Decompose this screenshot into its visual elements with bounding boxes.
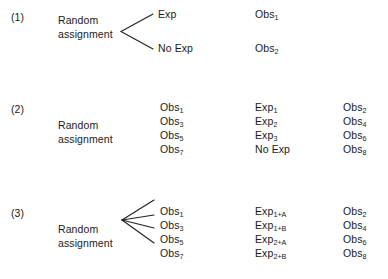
experimental-design-diagram: (1) Random assignment Exp No Exp Obs1 Ob… [0, 0, 388, 279]
cell-treatment-2-0: Exp1 [255, 101, 277, 113]
random-assignment-line-1b: assignment [58, 28, 113, 42]
cell-treatment-2-1: Exp2 [255, 115, 277, 127]
cell-posttest-3-3: Obs8 [343, 247, 367, 259]
cell-posttest-2-0: Obs2 [343, 101, 367, 113]
design-block-2: (2) Random assignment Obs1 Obs3 Obs5 Obs… [0, 92, 388, 184]
branch-fan-2way [118, 8, 158, 56]
cell-treatment-1-0: Exp [158, 8, 176, 20]
cell-posttest-3-0: Obs2 [343, 205, 367, 217]
cell-posttest-3-1: Obs4 [343, 219, 367, 231]
cell-posttest-1-0: Obs1 [255, 8, 279, 20]
design-index-label-2: (2) [11, 103, 24, 115]
cell-pretest-3-0: Obs1 [160, 205, 184, 217]
random-assignment-label-3: Random assignment [58, 223, 113, 250]
cell-posttest-2-1: Obs4 [343, 115, 367, 127]
cell-pretest-2-0: Obs1 [160, 101, 184, 113]
cell-pretest-2-1: Obs3 [160, 115, 184, 127]
cell-treatment-2-2: Exp3 [255, 129, 277, 141]
cell-posttest-3-2: Obs6 [343, 233, 367, 245]
cell-treatment-3-1: Exp1+B [255, 219, 286, 231]
cell-treatment-3-2: Exp2+A [255, 233, 286, 245]
design-block-1: (1) Random assignment Exp No Exp Obs1 Ob… [0, 0, 388, 84]
cell-pretest-3-3: Obs7 [160, 247, 184, 259]
random-assignment-line-2b: assignment [58, 133, 113, 147]
random-assignment-line-3b: assignment [58, 237, 113, 251]
cell-pretest-3-1: Obs3 [160, 219, 184, 231]
cell-posttest-2-3: Obs8 [343, 143, 367, 155]
random-assignment-line-1a: Random [58, 14, 113, 28]
random-assignment-label-2: Random assignment [58, 119, 113, 146]
cell-treatment-3-3: Exp2+B [255, 247, 286, 259]
random-assignment-line-3a: Random [58, 223, 113, 237]
cell-treatment-1-1: No Exp [158, 42, 193, 54]
design-block-3: (3) Random assignment Obs1 Obs3 Obs5 Obs… [0, 196, 388, 279]
branch-line-1 [121, 14, 153, 32]
cell-pretest-2-3: Obs7 [160, 143, 184, 155]
design-index-label-3: (3) [11, 207, 24, 219]
branch-line-2 [121, 32, 153, 50]
cell-treatment-2-3: No Exp [255, 143, 290, 155]
random-assignment-label-1: Random assignment [58, 14, 113, 41]
cell-posttest-2-2: Obs6 [343, 129, 367, 141]
random-assignment-line-2a: Random [58, 119, 113, 133]
cell-pretest-3-2: Obs5 [160, 233, 184, 245]
cell-pretest-2-2: Obs5 [160, 129, 184, 141]
design-index-label-1: (1) [11, 11, 24, 23]
cell-posttest-1-1: Obs2 [255, 42, 279, 54]
cell-treatment-3-0: Exp1+A [255, 205, 286, 217]
